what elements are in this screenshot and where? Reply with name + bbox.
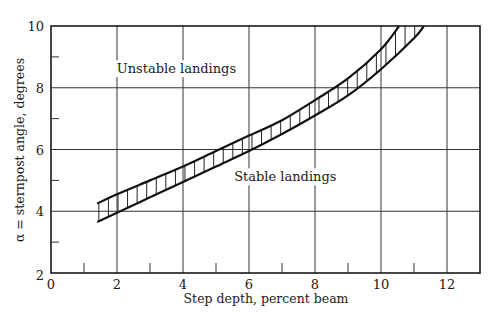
x-tick-label: 0 <box>47 277 55 292</box>
y-tick-label: 10 <box>27 19 44 34</box>
axis-ticks <box>51 57 414 273</box>
x-tick-label: 4 <box>179 277 187 292</box>
x-axis-title: Step depth, percent beam <box>184 291 349 306</box>
x-tick-labels: 024681012 <box>47 277 455 292</box>
x-tick-label: 10 <box>373 277 390 292</box>
y-tick-label: 2 <box>36 268 44 283</box>
y-tick-labels: 246810 <box>27 19 44 283</box>
y-axis-title: α = sternpost angle, degrees <box>12 58 27 242</box>
stable-region-label: Stable landings <box>231 168 339 185</box>
unstable-landings-label: Unstable landings <box>117 61 236 76</box>
x-tick-label: 8 <box>311 277 319 292</box>
y-tick-label: 8 <box>36 81 44 96</box>
x-tick-label: 12 <box>439 277 456 292</box>
x-tick-label: 6 <box>245 277 253 292</box>
unstable-region-label: Unstable landings <box>114 60 239 77</box>
x-tick-label: 2 <box>113 277 121 292</box>
stable-landings-label: Stable landings <box>234 169 336 184</box>
y-tick-label: 6 <box>36 143 44 158</box>
hatched-band <box>99 26 415 221</box>
y-tick-label: 4 <box>36 204 44 219</box>
chart: 024681012 246810 Unstable landings Stabl… <box>0 0 492 321</box>
